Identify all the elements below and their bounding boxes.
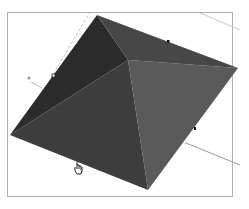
- edge-marker: [167, 40, 170, 43]
- vertex-handle[interactable]: [52, 74, 55, 77]
- hand-cursor-icon: [75, 162, 82, 174]
- edge-marker-2: [194, 127, 196, 130]
- status-bar: [8, 201, 243, 209]
- guide-line-top-right: [200, 13, 240, 30]
- 3d-viewport[interactable]: [0, 0, 249, 209]
- guide-point-2: [185, 142, 188, 145]
- guide-point: [27, 76, 30, 79]
- guide-tick: [31, 82, 42, 88]
- pyramid-model[interactable]: [0, 0, 249, 209]
- guide-line-bottom-right: [186, 143, 240, 165]
